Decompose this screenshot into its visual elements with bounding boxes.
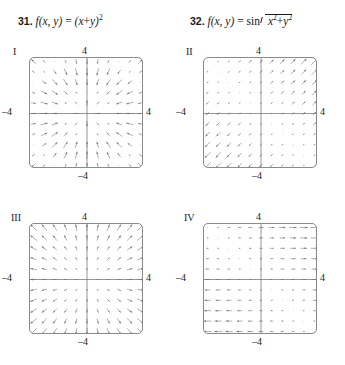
textbook-page: 31. f(x, y) = (x+y)2 32. f(x, y) = sinx2… [0, 0, 345, 365]
panel-IV-label: IV [184, 213, 195, 223]
problem-32-radical: x2+y2 [260, 14, 292, 27]
problem-32-number: 32. [190, 15, 205, 27]
problem-31-equals: = [65, 15, 72, 27]
panel-IV-tick-left: –4 [176, 273, 186, 283]
problem-31-expr-close: y) [90, 15, 99, 27]
panel-I-tick-left: –4 [2, 107, 12, 117]
panel-IV-tick-right: 4 [320, 273, 325, 283]
problem-31-expr-open: (x [75, 15, 84, 27]
panel-IV-vector-field [204, 224, 317, 334]
panel-III-tick-left: –4 [2, 273, 12, 283]
panel-III-tick-bottom: –4 [78, 337, 88, 347]
panel-II-vector-field [204, 58, 317, 168]
panel-I-tick-right: 4 [146, 107, 151, 117]
panel-I-tick-bottom: –4 [78, 171, 88, 181]
panel-IV-tick-top: 4 [256, 212, 261, 222]
panel-III-label: III [11, 213, 21, 223]
panel-II-tick-top: 4 [256, 46, 261, 56]
problem-31-number: 31. [18, 15, 33, 27]
panel-IV-plot [203, 223, 317, 334]
panel-I-vector-field [30, 58, 143, 168]
panel-II-tick-bottom: –4 [252, 171, 262, 181]
panel-II-plot [203, 57, 317, 168]
problem-32: 32. f(x, y) = sinx2+y2 [190, 14, 292, 27]
panel-III-plot [29, 223, 143, 334]
panel-II-tick-left: –4 [176, 107, 186, 117]
problem-31-function: f(x, y) [35, 15, 62, 27]
panel-I-plot [29, 57, 143, 168]
problem-32-radicand-y-exp: 2 [288, 13, 292, 22]
problem-31-exponent: 2 [99, 13, 103, 22]
panel-II-label: II [186, 47, 193, 57]
panel-IV-tick-bottom: –4 [252, 337, 262, 347]
problem-32-function: f(x, y) [207, 15, 234, 27]
panel-I-label: I [13, 47, 16, 57]
panel-II-tick-right: 4 [320, 107, 325, 117]
panel-III-tick-right: 4 [146, 273, 151, 283]
problem-32-sin: sin [247, 15, 260, 27]
problem-31: 31. f(x, y) = (x+y)2 [18, 14, 103, 27]
panel-III-vector-field [30, 224, 143, 334]
panel-I-tick-top: 4 [82, 46, 87, 56]
panel-III-tick-top: 4 [82, 212, 87, 222]
problem-32-equals: = [237, 15, 244, 27]
